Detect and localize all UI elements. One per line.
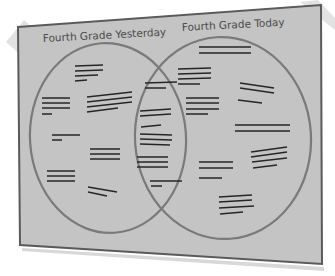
venn-diagram-board: Fourth Grade Yesterday Fourth Grade Toda… — [0, 0, 335, 276]
